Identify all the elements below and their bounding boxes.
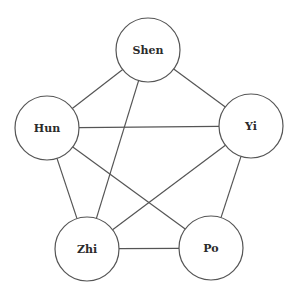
node-label-zhi: Zhi	[77, 243, 97, 256]
node-label-yi: Yi	[244, 120, 257, 133]
diagram-canvas: Shen Hun Yi Zhi Po	[0, 0, 297, 296]
edge-hun-yi	[79, 126, 219, 127]
node-label-po: Po	[203, 242, 218, 255]
edge-shen-zhi	[96, 81, 138, 219]
node-hun: Hun	[15, 96, 79, 160]
node-yi: Yi	[219, 94, 283, 158]
edge-shen-yi	[174, 69, 226, 107]
node-zhi: Zhi	[55, 217, 119, 281]
edge-hun-zhi	[57, 158, 77, 218]
edge-shen-hun	[72, 70, 122, 109]
nodes-layer: Shen Hun Yi Zhi Po	[15, 18, 283, 281]
network-graph: Shen Hun Yi Zhi Po	[0, 0, 297, 296]
node-label-hun: Hun	[34, 122, 60, 135]
node-shen: Shen	[116, 18, 180, 82]
node-po: Po	[179, 216, 243, 280]
edge-yi-po	[221, 156, 241, 217]
node-label-shen: Shen	[133, 44, 164, 57]
